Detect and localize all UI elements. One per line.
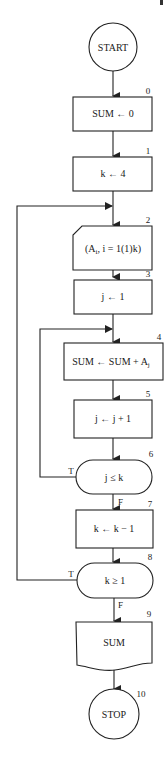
flowchart: START SUM ← 0 0 k ← 4 1 (Ai, i = 1(1)k) … (0, 0, 166, 764)
process-node-7: k ← k − 1 7 (76, 499, 153, 548)
node-8-false-label: F (118, 600, 123, 610)
decision-node-8: k ≥ 1 8 T F (68, 552, 153, 610)
node-6-true-label: T (68, 466, 74, 476)
node-6-false-label: F (118, 497, 123, 507)
stop-node: STOP 10 (89, 689, 146, 739)
node-5-number: 5 (146, 389, 151, 399)
node-9-label: SUM (103, 637, 125, 648)
decision-node-6: j ≤ k 6 T F (68, 449, 154, 507)
node-3-number: 3 (146, 269, 151, 279)
cropped-glyph (160, 0, 163, 5)
node-0-number: 0 (146, 86, 151, 96)
start-node: START (89, 23, 137, 71)
node-1-number: 1 (146, 146, 151, 156)
node-4-number: 4 (157, 332, 162, 342)
node-2-number: 2 (146, 215, 151, 225)
node-8-label: k ≥ 1 (105, 575, 126, 586)
stop-label: STOP (102, 709, 127, 720)
node-0-label: SUM ← 0 (92, 108, 134, 119)
node-7-label: k ← k − 1 (94, 523, 135, 534)
node-8-true-label: T (68, 569, 74, 579)
node-6-label: j ≤ k (104, 472, 123, 483)
node-5-label: j ← j + 1 (94, 413, 131, 424)
node-1-label: k ← 4 (101, 168, 126, 179)
node-7-number: 7 (148, 499, 153, 509)
node-9-number: 9 (147, 609, 152, 619)
stop-number: 10 (137, 689, 147, 699)
node-3-label: j ← 1 (101, 291, 125, 302)
node-8-number: 8 (148, 552, 153, 562)
node-6-number: 6 (149, 449, 154, 459)
start-label: START (98, 42, 128, 53)
